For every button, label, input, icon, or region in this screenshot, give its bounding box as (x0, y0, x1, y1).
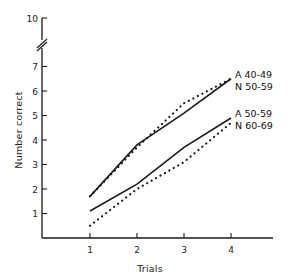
line-chart: 1234567101234 A 40-49N 50-59A 50-59N 60-… (0, 0, 288, 280)
series-group (90, 79, 231, 226)
y-axis-title: Number correct (13, 91, 24, 168)
x-tick-label: 2 (134, 245, 140, 255)
y-tick-label: 1 (32, 209, 38, 219)
x-tick-label: 3 (181, 245, 187, 255)
x-axis-title: Trials (136, 263, 163, 274)
y-tick-label: 6 (32, 87, 38, 97)
series-label: A 50-59 (235, 108, 272, 119)
y-tick-label: 7 (32, 62, 38, 72)
x-tick-label: 1 (87, 245, 93, 255)
y-tick-label: 3 (32, 160, 38, 170)
y-tick-label: 5 (32, 111, 38, 121)
series-line-n-50-59 (90, 79, 231, 197)
y-tick-label: 2 (32, 185, 38, 195)
series-label: N 50-59 (235, 81, 273, 92)
series-line-a-50-59 (90, 118, 231, 211)
x-tick-label: 4 (228, 245, 234, 255)
y-tick-label: 10 (27, 14, 39, 24)
y-tick-label: 4 (32, 136, 38, 146)
series-labels: A 40-49N 50-59A 50-59N 60-69 (235, 69, 273, 131)
series-line-a-40-49 (90, 79, 231, 197)
series-label: N 60-69 (235, 120, 273, 131)
series-label: A 40-49 (235, 69, 272, 80)
